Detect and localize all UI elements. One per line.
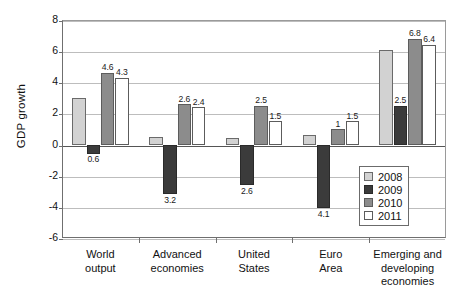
legend-item-2009[interactable]: 2009 xyxy=(364,183,402,196)
gdp-growth-bar-chart: GDP growth 86420-2-4-6 0.64.64.33.22.62.… xyxy=(0,0,466,292)
y-tick-label: -4 xyxy=(32,200,58,212)
y-tick-mark xyxy=(59,83,63,84)
legend-label: 2010 xyxy=(378,197,402,209)
x-tick-mark xyxy=(139,238,140,243)
bar-value-label: 1.5 xyxy=(263,111,289,121)
bar-value-label: 4.3 xyxy=(109,67,135,77)
legend: 2008200920102011 xyxy=(359,166,409,226)
bar-2009-3 xyxy=(240,145,254,185)
bar-2009-1 xyxy=(87,145,101,154)
legend-swatch-icon xyxy=(364,185,373,194)
legend-swatch-icon xyxy=(364,211,373,220)
y-tick-label: 4 xyxy=(32,75,58,87)
bar-2008-4 xyxy=(303,135,317,144)
y-tick-mark xyxy=(59,208,63,209)
legend-item-2010[interactable]: 2010 xyxy=(364,196,402,209)
category-label-2: Advanced economies xyxy=(139,248,216,275)
y-tick-mark xyxy=(59,52,63,53)
y-tick-label: -2 xyxy=(32,169,58,181)
y-tick-mark xyxy=(59,239,63,240)
bar-value-label: 6.4 xyxy=(416,34,442,44)
bar-value-label: 2.5 xyxy=(248,95,274,105)
bar-2011-1 xyxy=(115,78,129,145)
legend-swatch-icon xyxy=(364,198,373,207)
bar-value-label: 2.4 xyxy=(186,97,212,107)
y-tick-label: 2 xyxy=(32,106,58,118)
y-tick-label: 6 xyxy=(32,44,58,56)
y-tick-mark xyxy=(59,114,63,115)
x-tick-mark xyxy=(369,238,370,243)
bar-2011-5 xyxy=(422,45,436,145)
bar-value-label: 2.6 xyxy=(234,186,260,196)
legend-label: 2009 xyxy=(378,184,402,196)
x-tick-mark xyxy=(216,238,217,243)
legend-item-2008[interactable]: 2008 xyxy=(364,170,402,183)
legend-swatch-icon xyxy=(364,172,373,181)
y-axis-title: GDP growth xyxy=(15,61,27,171)
bar-value-label: 0.6 xyxy=(81,154,107,164)
gridline-0 xyxy=(63,146,445,147)
category-label-5: Emerging and developing economies xyxy=(369,248,446,289)
bar-2008-1 xyxy=(72,98,86,145)
bar-2011-3 xyxy=(269,121,283,144)
bar-2009-5 xyxy=(394,106,408,145)
gridline--6 xyxy=(63,239,445,240)
y-tick-label: 8 xyxy=(32,13,58,25)
bar-2008-2 xyxy=(149,137,163,145)
bar-2011-4 xyxy=(346,121,360,144)
y-tick-label: -6 xyxy=(32,231,58,243)
bar-2009-2 xyxy=(163,145,177,195)
y-tick-mark xyxy=(59,21,63,22)
bar-value-label: 1.5 xyxy=(340,111,366,121)
bar-2010-1 xyxy=(101,73,115,145)
bar-value-label: 4.1 xyxy=(311,209,337,219)
bar-2009-4 xyxy=(317,145,331,209)
x-tick-mark xyxy=(292,238,293,243)
bar-2008-3 xyxy=(226,138,240,144)
category-label-1: World output xyxy=(62,248,139,275)
bar-2010-5 xyxy=(408,39,422,145)
legend-item-2011[interactable]: 2011 xyxy=(364,209,402,222)
gridline-8 xyxy=(63,21,445,22)
y-tick-mark xyxy=(59,177,63,178)
category-label-4: Euro Area xyxy=(292,248,369,275)
bar-2011-2 xyxy=(192,107,206,144)
legend-label: 2011 xyxy=(378,210,402,222)
bar-2010-4 xyxy=(331,129,345,145)
bar-2010-2 xyxy=(178,104,192,144)
bar-value-label: 3.2 xyxy=(157,195,183,205)
y-tick-mark xyxy=(59,146,63,147)
category-label-3: United States xyxy=(216,248,293,275)
y-tick-label: 0 xyxy=(32,138,58,150)
legend-label: 2008 xyxy=(378,171,402,183)
